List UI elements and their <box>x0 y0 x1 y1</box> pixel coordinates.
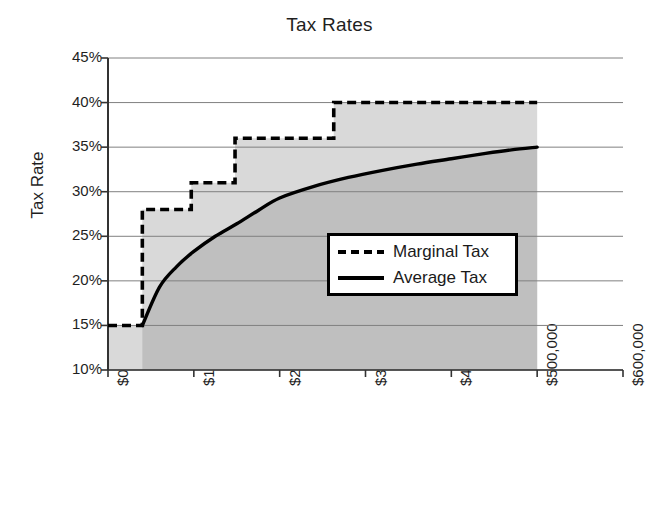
legend-entry-marginal-tax: Marginal Tax <box>338 239 489 265</box>
solid-line-swatch-icon <box>338 271 384 285</box>
legend-label-average-tax: Average Tax <box>393 268 487 288</box>
dashed-line-swatch-icon <box>338 245 384 259</box>
legend-label-marginal-tax: Marginal Tax <box>393 242 489 262</box>
tax-rates-chart: Tax Rates Tax Rate 10%15%20%25%30%35%40%… <box>0 0 659 507</box>
legend-entry-average-tax: Average Tax <box>338 265 487 291</box>
chart-legend: Marginal Tax Average Tax <box>327 233 518 296</box>
